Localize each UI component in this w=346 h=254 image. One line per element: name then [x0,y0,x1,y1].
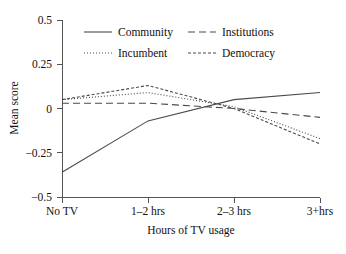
series-line-incumbent [62,93,320,139]
x-tick-label: 3+hrs [307,205,334,217]
legend-label-community: Community [118,26,173,39]
y-tick-label: 0 [46,103,52,115]
y-tick-label: −0.25 [25,147,52,159]
y-tick-label: 0.5 [38,14,53,26]
legend-label-democracy: Democracy [222,47,275,60]
x-tick-label: No TV [46,205,79,217]
y-tick-label: 0.25 [32,58,52,70]
y-axis-title: Mean score [8,81,20,134]
legend-label-institutions: Institutions [222,26,274,38]
line-chart: 0.5 0.25 0 −0.25 −0.5 No TV 1–2 hrs 2–3 … [0,0,346,254]
chart-legend: Community Institutions Incumbent Democra… [84,26,275,60]
chart-canvas: 0.5 0.25 0 −0.25 −0.5 No TV 1–2 hrs 2–3 … [0,0,346,254]
x-tick-label: 2–3 hrs [217,205,252,217]
series-line-democracy [62,85,320,143]
legend-label-incumbent: Incumbent [118,47,168,59]
x-tick-label: 1–2 hrs [131,205,166,217]
series-line-community [62,93,320,173]
y-tick-label: −0.5 [31,191,52,203]
x-axis-title: Hours of TV usage [147,224,234,237]
